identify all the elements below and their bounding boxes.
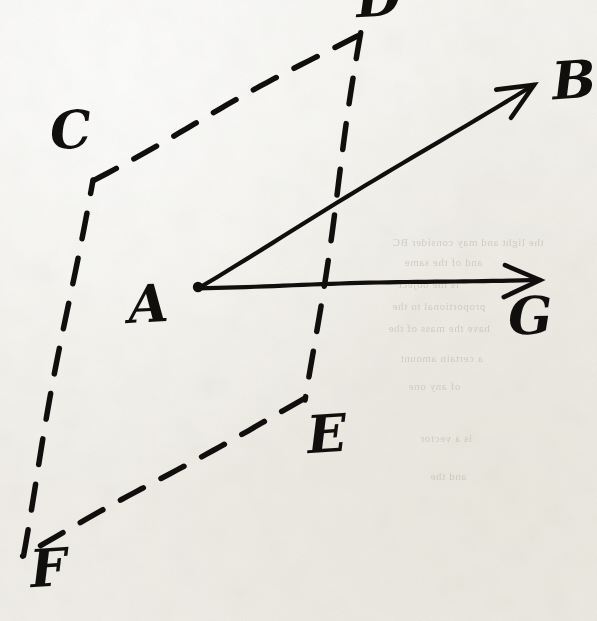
label-F: F — [28, 541, 68, 595]
vector-AG — [198, 280, 540, 289]
label-E: E — [305, 407, 348, 462]
arrowhead-B — [496, 85, 534, 118]
edge-FC — [24, 180, 93, 555]
edge-EF — [23, 399, 305, 557]
label-B: B — [550, 53, 597, 108]
point-marker-A — [193, 282, 203, 292]
label-G: G — [507, 289, 553, 343]
label-A: A — [127, 277, 170, 331]
figure-canvas: the light and may consider BCand of the … — [0, 0, 597, 621]
origin-point-marker — [193, 282, 203, 292]
label-C: C — [48, 103, 93, 158]
edge-CD — [93, 33, 362, 180]
arrowheads-group — [496, 85, 540, 297]
vector-AB — [199, 85, 534, 288]
label-D: D — [355, 0, 403, 25]
solid-vectors-group — [198, 85, 540, 289]
